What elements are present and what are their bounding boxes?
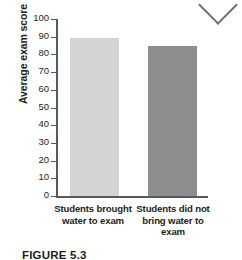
y-tick-label: 20 <box>38 154 49 165</box>
y-tick-mark <box>51 143 56 144</box>
y-tick-label: 90 <box>38 30 49 41</box>
bar-2 <box>148 46 197 196</box>
y-tick-label: 100 <box>33 12 49 23</box>
bar-1 <box>70 38 119 196</box>
y-tick-mark <box>51 72 56 73</box>
figure-container: Average exam score 100908070605040302010… <box>0 0 242 260</box>
y-tick-label: 0 <box>44 189 49 200</box>
y-tick-label: 40 <box>38 118 49 129</box>
y-tick-label: 30 <box>38 136 49 147</box>
y-tick-mark <box>51 90 56 91</box>
y-axis-line <box>56 19 58 196</box>
y-tick-mark <box>51 196 56 197</box>
y-axis-title: Average exam score <box>17 0 29 129</box>
y-tick-label: 80 <box>38 47 49 58</box>
category-label-2: Students did not bring water to exam <box>134 203 212 238</box>
y-tick-mark <box>51 19 56 20</box>
y-tick-label: 50 <box>38 101 49 112</box>
y-tick-mark <box>51 54 56 55</box>
y-tick-label: 10 <box>38 171 49 182</box>
y-tick-mark <box>51 108 56 109</box>
y-tick-mark <box>51 178 56 179</box>
y-tick-mark <box>51 161 56 162</box>
category-label-1: Students brought water to exam <box>54 203 132 226</box>
x-axis-line <box>56 196 208 198</box>
category-labels: Students brought water to exam Students … <box>56 203 212 247</box>
y-tick-label: 60 <box>38 83 49 94</box>
y-tick-label: 70 <box>38 65 49 76</box>
y-tick-mark <box>51 37 56 38</box>
figure-caption: FIGURE 5.3 <box>22 249 87 260</box>
plot-area: 1009080706050403020100 <box>56 19 206 196</box>
y-tick-mark <box>51 125 56 126</box>
